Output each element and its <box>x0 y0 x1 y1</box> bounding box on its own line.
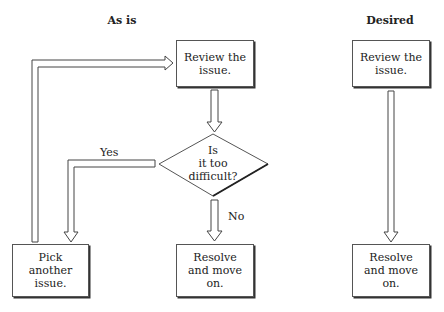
no-arrow <box>207 200 222 241</box>
yes-arrow <box>64 160 155 242</box>
as-is-review-box: Review the issue. <box>176 40 254 87</box>
desired-resolve-box: Resolve and move on. <box>352 244 430 297</box>
yes-label: Yes <box>100 146 118 159</box>
desired-review-box: Review the issue. <box>352 40 430 87</box>
decision-text: Is it too difficult? <box>173 144 253 183</box>
review-to-decision-arrow <box>207 90 222 132</box>
desired-arrow <box>384 91 398 242</box>
pick-another-box: Pick another issue. <box>12 244 89 297</box>
as-is-resolve-box: Resolve and move on. <box>176 244 254 297</box>
no-label: No <box>228 210 244 223</box>
